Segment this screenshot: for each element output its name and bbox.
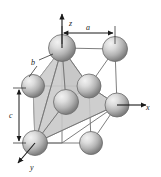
atom-group: [22, 35, 130, 156]
atom-inner-upper: [77, 74, 101, 98]
atom-bottom-mid: [80, 132, 103, 155]
crystal-structure-svg: z x y a b c: [0, 0, 161, 177]
y-axis-label: y: [29, 163, 34, 172]
dim-b-leader-upper: [39, 54, 53, 60]
dimension-a-label: a: [86, 23, 90, 32]
atom-mid-left: [22, 75, 45, 98]
x-axis-label: x: [145, 103, 150, 112]
dimension-b-label: b: [31, 58, 35, 67]
z-axis-label: z: [68, 19, 73, 28]
dimension-c-group: [13, 88, 26, 143]
crystal-unit-cell-figure: z x y a b c: [0, 0, 161, 177]
atom-inner-lower: [54, 90, 79, 115]
dimension-c-label: c: [9, 111, 13, 120]
